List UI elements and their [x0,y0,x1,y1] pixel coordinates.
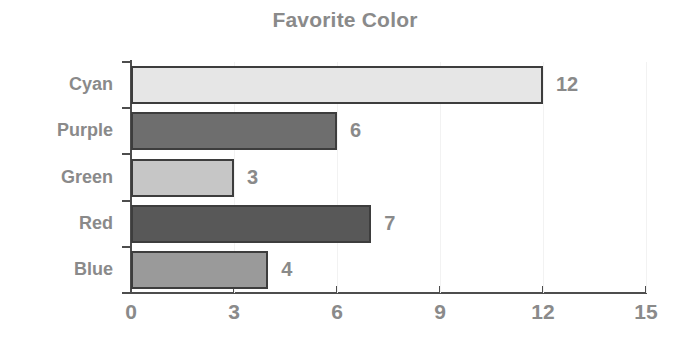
x-tick-label-15: 15 [616,300,676,324]
y-tick-3 [122,200,131,202]
x-tick-label-12: 12 [513,300,573,324]
gridline-12 [543,62,544,293]
plot-area [131,62,646,293]
y-category-label-blue: Blue [0,259,113,280]
x-tick-label-0: 0 [101,300,161,324]
y-tick-4 [122,246,131,248]
bar-value-label-purple: 6 [350,119,361,142]
y-tick-5 [122,292,131,294]
bar-cyan[interactable] [131,66,543,104]
y-category-label-cyan: Cyan [0,74,113,95]
bar-red[interactable] [131,205,371,243]
gridline-15 [646,62,647,293]
x-tick-label-6: 6 [307,300,367,324]
y-category-label-red: Red [0,213,113,234]
bar-purple[interactable] [131,112,337,150]
chart-title-text: Favorite Color [272,8,417,32]
y-tick-2 [122,153,131,155]
bar-blue[interactable] [131,251,268,289]
bar-value-label-green: 3 [247,166,258,189]
bar-value-label-cyan: 12 [556,73,578,96]
y-tick-0 [122,61,131,63]
x-tick-label-9: 9 [410,300,470,324]
y-category-label-purple: Purple [0,120,113,141]
x-tick-label-3: 3 [204,300,264,324]
bar-value-label-red: 7 [384,212,395,235]
y-category-label-green: Green [0,167,113,188]
y-tick-1 [122,107,131,109]
chart-title: Favorite Color [0,8,690,32]
chart-canvas: Favorite Color 03691215 CyanPurpleGreenR… [0,0,690,356]
bar-value-label-blue: 4 [281,258,292,281]
bar-green[interactable] [131,159,234,197]
